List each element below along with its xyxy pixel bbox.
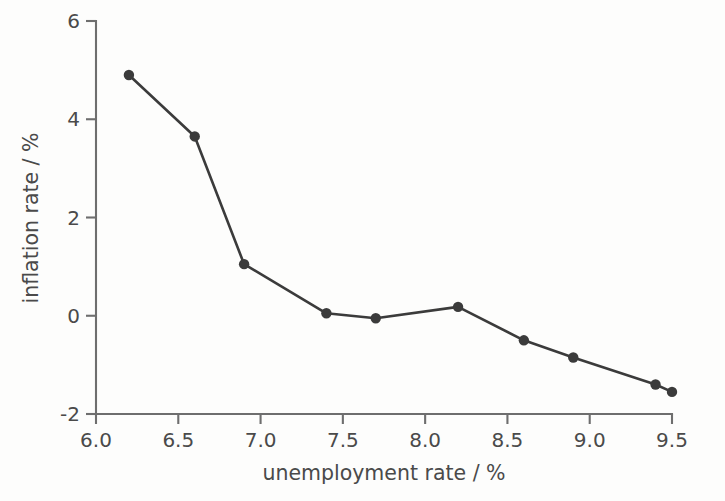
- x-tick-label-8.5: 8.5: [492, 428, 524, 452]
- data-point: [453, 302, 463, 312]
- phillips-curve-chart: 6420-2 6.06.57.07.58.08.59.09.5 unemploy…: [0, 0, 725, 501]
- y-tick-label-2: 2: [67, 206, 80, 230]
- x-axis-tick-labels: 6.06.57.07.58.08.59.09.5: [80, 428, 688, 452]
- y-axis-ticks: [86, 21, 96, 414]
- x-axis-ticks: [96, 414, 672, 424]
- data-point: [124, 70, 134, 80]
- data-point: [371, 313, 381, 323]
- y-axis-title: inflation rate / %: [19, 132, 43, 303]
- x-tick-label-6.5: 6.5: [162, 428, 194, 452]
- y-tick-label-0: 0: [67, 304, 80, 328]
- data-point: [239, 259, 249, 269]
- x-axis-title: unemployment rate / %: [262, 461, 505, 485]
- x-tick-label-9.5: 9.5: [656, 428, 688, 452]
- y-axis-tick-labels: 6420-2: [60, 9, 80, 426]
- data-point: [321, 308, 331, 318]
- data-series-markers: [124, 70, 677, 397]
- data-point: [650, 379, 660, 389]
- data-point: [667, 387, 677, 397]
- data-point: [519, 335, 529, 345]
- data-point: [190, 131, 200, 141]
- x-tick-label-6.0: 6.0: [80, 428, 112, 452]
- data-point: [568, 352, 578, 362]
- data-series-line: [129, 75, 672, 392]
- chart-page: 6420-2 6.06.57.07.58.08.59.09.5 unemploy…: [0, 0, 725, 501]
- x-tick-label-9.0: 9.0: [574, 428, 606, 452]
- x-tick-label-7.0: 7.0: [245, 428, 277, 452]
- y-tick-label--2: -2: [60, 402, 80, 426]
- y-tick-label-4: 4: [67, 107, 80, 131]
- x-tick-label-8.0: 8.0: [409, 428, 441, 452]
- x-tick-label-7.5: 7.5: [327, 428, 359, 452]
- axes-group: [96, 21, 672, 414]
- y-tick-label-6: 6: [67, 9, 80, 33]
